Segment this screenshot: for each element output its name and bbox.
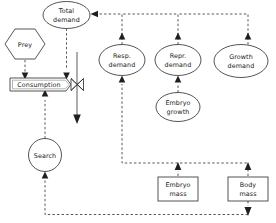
edge-growth-demand-to-total-demand [178,14,251,45]
node-resp-demand-label-line2: demand [109,61,136,69]
node-embryo-growth[interactable]: Embryo growth [156,93,200,122]
node-embryo-growth-label-line2: growth [167,108,190,116]
edge-repr-demand-to-total-demand [122,14,181,45]
node-search-label: Search [34,152,57,160]
node-repr-demand-label-line1: Repr. [170,52,187,60]
node-embryo-growth-label-line1: Embryo [165,99,190,107]
node-embryo-mass[interactable]: Embryo mass [158,177,198,201]
edge-search-to-consumption [42,90,49,139]
node-growth-demand-label-line2: demand [228,62,255,70]
node-body-mass[interactable]: Body mass [228,177,268,201]
node-body-mass-label-line1: Body [240,181,257,189]
edge-embryo-mass-to-rail [175,162,182,176]
node-repr-demand[interactable]: Repr. demand [155,45,201,76]
node-growth-demand-label-line1: Growth [229,53,253,61]
node-embryo-mass-label-line1: Embryo [165,181,190,189]
node-consumption-label: Consumption [17,81,60,89]
node-total-demand-label-line1: Total [58,7,75,15]
node-total-demand[interactable]: Total demand [43,2,90,29]
arrow-into-total-demand [91,11,99,18]
edge-body-mass-to-rail [245,162,252,176]
node-embryo-mass-label-line2: mass [169,190,187,198]
node-resp-demand-label-line1: Resp. [113,52,131,60]
edge-total-demand-to-consumption [63,29,70,80]
node-search[interactable]: Search [29,139,62,172]
node-consumption[interactable]: Consumption [10,78,71,91]
node-resp-demand[interactable]: Resp. demand [99,45,145,76]
node-total-demand-label-line2: demand [53,16,80,24]
node-repr-demand-label-line2: demand [165,61,192,69]
flow-diagram-canvas: Total demand Prey Consumption Search [0,0,276,223]
edge-embryo-growth-to-repr-demand [175,76,182,93]
node-prey-label: Prey [18,41,32,49]
edge-consumption-outflow [73,52,81,124]
flow-diagram-svg: Total demand Prey Consumption Search [0,0,276,223]
node-body-mass-label-line2: mass [239,190,257,198]
edge-resp-demand-to-total-demand [96,14,125,45]
edge-mass-rail-to-resp-demand [119,76,248,172]
edge-body-mass-to-search [42,172,252,217]
edge-prey-to-consumption [22,60,29,80]
node-growth-demand[interactable]: Growth demand [214,45,268,78]
node-prey[interactable]: Prey [5,29,45,59]
